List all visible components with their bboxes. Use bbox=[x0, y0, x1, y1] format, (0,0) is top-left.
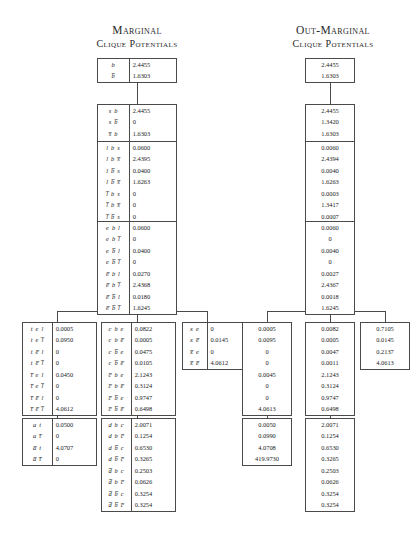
table-row: c b e̅0.0005 bbox=[102, 335, 175, 347]
edge-b-sb bbox=[137, 81, 138, 104]
cell-value: 4.0613 bbox=[243, 404, 291, 416]
table-row: e b̅ l0.0400 bbox=[98, 245, 176, 257]
cell-label: s b̅ bbox=[98, 117, 129, 129]
cell-label: l b̅ s̅ bbox=[98, 177, 129, 189]
cell-value: 0.0270 bbox=[129, 268, 176, 280]
table-row: e̅ b l0.0270 bbox=[98, 268, 176, 280]
cell-value: 0 bbox=[243, 346, 291, 358]
cell-value: 0.0990 bbox=[243, 431, 291, 443]
cell-label: t e l̅ bbox=[23, 335, 52, 347]
table-row: a̅ t̅0 bbox=[23, 454, 96, 466]
cell-label: e b̅ l̅ bbox=[98, 257, 129, 269]
cell-value: 1.6263 bbox=[129, 177, 176, 189]
cell-label: x e̅ bbox=[183, 335, 207, 347]
table-row: 0.2137 bbox=[361, 346, 409, 358]
table-row: l b̅ s0.0400 bbox=[98, 165, 176, 177]
cell-value: 0.3254 bbox=[306, 488, 354, 500]
cell-value: 0.6498 bbox=[131, 404, 175, 416]
cell-label: c̅ b̅ e bbox=[102, 392, 131, 404]
cell-value: 0.0011 bbox=[306, 358, 354, 370]
table-row: x e0 bbox=[183, 323, 243, 335]
cell-value: 0.0040 bbox=[306, 165, 354, 177]
cell-value: 0.2503 bbox=[306, 465, 354, 477]
cell-value: 1.3417 bbox=[306, 200, 354, 212]
table-row: 0.0145 bbox=[361, 335, 409, 347]
cell-label: l b s bbox=[98, 142, 129, 154]
cell-label: t e l bbox=[23, 323, 52, 335]
table-row: e̅ b l̅2.4368 bbox=[98, 280, 176, 292]
cell-label: c b̅ e̅ bbox=[102, 358, 131, 370]
table-row: e b l0.0600 bbox=[98, 222, 176, 234]
cell-value: 0.0050 bbox=[243, 419, 291, 431]
cell-label: c̅ b e̅ bbox=[102, 381, 131, 393]
cell-value: 0.7105 bbox=[361, 323, 409, 335]
cell-value: 419.9730 bbox=[243, 454, 291, 466]
cell-value: 0 bbox=[306, 234, 354, 246]
table-row: l̅ b s̅0 bbox=[98, 200, 176, 212]
cell-value: 0.1254 bbox=[306, 431, 354, 443]
cell-label: b̅ bbox=[98, 71, 129, 83]
cell-label: s̅ b bbox=[98, 128, 129, 140]
cell-label: c̅ b̅ e̅ bbox=[102, 404, 131, 416]
cell-label: e b̅ l bbox=[98, 245, 129, 257]
table-row: t̅ e l̅0 bbox=[23, 381, 96, 393]
table-row: d b c̅0.1254 bbox=[102, 431, 175, 443]
heading-marginal-line1: Marginal bbox=[52, 24, 222, 38]
table-row: 2.1243 bbox=[306, 369, 354, 381]
table-row: x̅ e0 bbox=[183, 346, 243, 358]
cell-value: 2.4395 bbox=[129, 154, 176, 166]
cell-value: 0.0005 bbox=[306, 335, 354, 347]
table-row: 0.0040 bbox=[306, 165, 354, 177]
cell-value: 0.0822 bbox=[131, 323, 175, 335]
cell-value: 0.0045 bbox=[243, 369, 291, 381]
cell-value: 0.0600 bbox=[129, 142, 176, 154]
cell-value: 0.3254 bbox=[131, 488, 175, 500]
table-row: a t0.0500 bbox=[23, 419, 96, 431]
cell-value: 0 bbox=[52, 358, 96, 370]
table-row: 0.6530 bbox=[306, 442, 354, 454]
table-row: c b̅ e0.0475 bbox=[102, 346, 175, 358]
table-row: s̅ b1.6303 bbox=[98, 128, 176, 140]
cell-value: 1.6303 bbox=[129, 128, 176, 140]
cell-value: 0.0005 bbox=[52, 323, 96, 335]
table-row: t e̅ l̅0 bbox=[23, 358, 96, 370]
cell-value: 4.0707 bbox=[52, 442, 96, 454]
cell-value: 1.6245 bbox=[129, 303, 176, 315]
cell-label: t e̅ l bbox=[23, 346, 52, 358]
table-row: b2.4455 bbox=[98, 59, 176, 71]
table-row: t̅ e̅ l0 bbox=[23, 392, 96, 404]
cell-value: 0.9747 bbox=[131, 392, 175, 404]
out-edge-b-sb bbox=[330, 81, 331, 104]
cell-label: a̅ t̅ bbox=[23, 454, 52, 466]
table-row: 0.0095 bbox=[243, 335, 291, 347]
table-row: t e l0.0005 bbox=[23, 323, 96, 335]
table-row: t̅ e̅ l̅4.0612 bbox=[23, 404, 96, 416]
cell-label: b bbox=[98, 59, 129, 71]
table-row: 1.3420 bbox=[306, 117, 354, 129]
cell-label: a t̅ bbox=[23, 431, 52, 443]
cell-value: 0.0060 bbox=[306, 142, 354, 154]
cell-label: d̅ b c̅ bbox=[102, 477, 131, 489]
cell-value: 2.4367 bbox=[306, 280, 354, 292]
table-row: 0 bbox=[306, 257, 354, 269]
cell-label: l b̅ s bbox=[98, 165, 129, 177]
cell-value: 2.4455 bbox=[306, 59, 354, 71]
cell-value: 0.0600 bbox=[129, 222, 176, 234]
table-row: 0.2503 bbox=[306, 465, 354, 477]
table-row: t e l̅0.0950 bbox=[23, 335, 96, 347]
table-row: 419.9730 bbox=[243, 454, 291, 466]
table-row: 0.1254 bbox=[306, 431, 354, 443]
table-row: e̅ b̅ l̅1.6245 bbox=[98, 303, 176, 315]
cell-value: 0 bbox=[207, 323, 243, 335]
junction-tree-figure: Marginal Clique Potentials Out-Marginal … bbox=[0, 0, 418, 540]
cell-value: 2.4394 bbox=[306, 154, 354, 166]
cell-value: 2.1243 bbox=[306, 369, 354, 381]
out-marginal-table-cbe: 0.00820.00050.00470.00112.12430.31240.97… bbox=[305, 322, 355, 416]
marginal-table-b: b2.4455b̅1.6303 bbox=[97, 58, 177, 83]
cell-value: 0.6530 bbox=[306, 442, 354, 454]
cell-value: 0.0095 bbox=[243, 335, 291, 347]
table-row: 0.0626 bbox=[306, 477, 354, 489]
table-row: s b2.4455 bbox=[98, 105, 176, 117]
out-marginal-table-tel: 0.00050.0095000.0045004.0613 bbox=[242, 322, 292, 416]
table-row: t̅ e l0.0450 bbox=[23, 369, 96, 381]
